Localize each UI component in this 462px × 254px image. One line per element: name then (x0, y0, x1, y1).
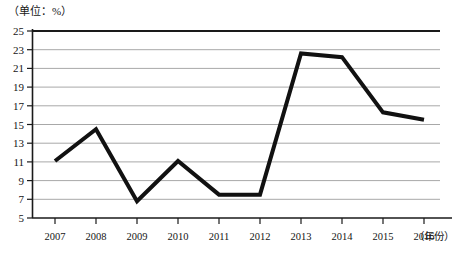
x-tick-label: 2013 (278, 231, 324, 242)
y-axis-ticks (27, 31, 32, 218)
y-tick-label: 17 (2, 101, 24, 112)
y-tick-label: 19 (2, 82, 24, 93)
x-axis-ticks (55, 218, 424, 224)
x-tick-label: 2008 (73, 231, 119, 242)
y-tick-label: 9 (2, 176, 24, 187)
x-tick-label: 2012 (237, 231, 283, 242)
x-tick-label: 2009 (114, 231, 160, 242)
y-tick-label: 11 (2, 157, 24, 168)
data-series-line (55, 53, 424, 201)
x-tick-label: 2011 (196, 231, 242, 242)
x-axis-title: （年份） (414, 231, 454, 242)
gridlines (32, 50, 440, 200)
y-tick-label: 15 (2, 120, 24, 131)
y-tick-label: 21 (2, 63, 24, 74)
plot-area (0, 0, 462, 254)
x-tick-label: 2010 (155, 231, 201, 242)
y-tick-label: 23 (2, 45, 24, 56)
y-tick-label: 5 (2, 213, 24, 224)
y-tick-label: 25 (2, 26, 24, 37)
x-tick-label: 2014 (319, 231, 365, 242)
x-tick-label: 2007 (32, 231, 78, 242)
x-tick-label: 2015 (360, 231, 406, 242)
y-tick-label: 7 (2, 194, 24, 205)
line-chart: （单位：%） (0, 0, 462, 254)
y-tick-label: 13 (2, 138, 24, 149)
